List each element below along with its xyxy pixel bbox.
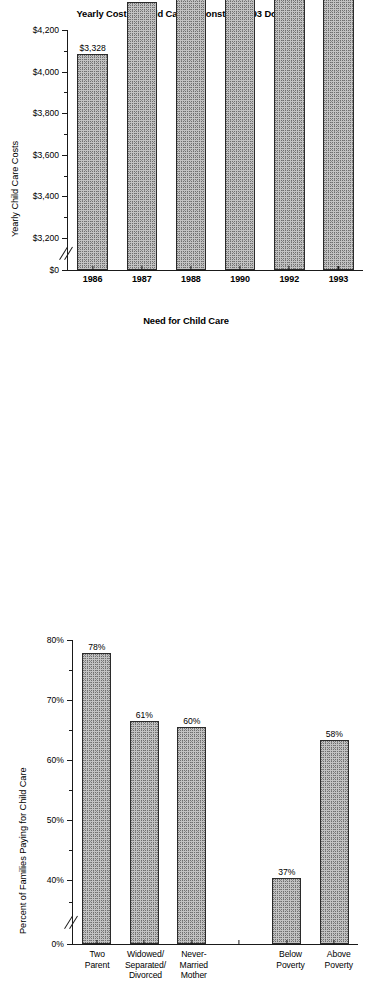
y-tick-label: $3,400 bbox=[33, 191, 59, 201]
y-tick-minor bbox=[64, 51, 67, 52]
bar-two-parent[interactable]: 78% bbox=[82, 653, 111, 944]
x-axis-line bbox=[72, 944, 358, 945]
bar-value-label: $3,328 bbox=[79, 43, 105, 53]
y-tick-label: 60% bbox=[47, 755, 64, 765]
bar-1992[interactable]: $4,004 bbox=[274, 0, 304, 270]
x-label-line: Divorced bbox=[121, 970, 169, 981]
x-axis-labels-yearly-cost: 1986 1987 1988 1990 1992 1993 bbox=[68, 274, 363, 285]
bar-1990[interactable]: $3,744 bbox=[225, 0, 255, 270]
y-axis-title-yearly-cost: Yearly Child Care Costs bbox=[10, 141, 20, 237]
bar-group-yearly-cost: $3,328 $3,536 $3,744 $3,744 bbox=[68, 30, 363, 270]
x-label-never-married-mother: Never- Married Mother bbox=[170, 949, 218, 981]
x-tick bbox=[334, 940, 335, 945]
bar-slot: 61% bbox=[121, 640, 169, 944]
x-label-line: Mother bbox=[170, 970, 218, 981]
y-tick-minor bbox=[64, 92, 67, 93]
x-tick bbox=[239, 940, 240, 945]
x-label-line: Poverty bbox=[315, 960, 363, 971]
y-tick-label: 80% bbox=[47, 635, 64, 645]
x-label-line: Above bbox=[315, 949, 363, 960]
x-label-line: Separated/ bbox=[121, 960, 169, 971]
x-label-line: Poverty bbox=[266, 960, 314, 971]
bar-slot: $3,536 bbox=[117, 30, 166, 270]
x-tick bbox=[144, 940, 145, 945]
x-tick bbox=[190, 266, 191, 271]
y-tick-major bbox=[67, 880, 72, 881]
x-tick bbox=[92, 266, 93, 271]
y-tick-major bbox=[62, 270, 67, 271]
x-axis-labels-need-for-child-care: Two Parent Widowed/ Separated/ Divorced … bbox=[73, 949, 363, 981]
x-axis-line bbox=[67, 270, 363, 271]
y-tick-major bbox=[62, 155, 67, 156]
y-tick-major bbox=[62, 30, 67, 31]
y-tick-minor bbox=[69, 902, 72, 903]
bar-slot-spacer bbox=[216, 640, 264, 944]
plot-area-yearly-cost: $4,200 $4,000 $3,800 $3,600 $3,400 $3,20… bbox=[67, 30, 363, 271]
x-label-line: Below bbox=[266, 949, 314, 960]
chart-title-need-for-child-care: Need for Child Care bbox=[14, 315, 358, 326]
bar-above-poverty[interactable]: 58% bbox=[320, 740, 349, 944]
bar-1986[interactable]: $3,328 bbox=[77, 54, 107, 270]
x-label-line: Never- bbox=[170, 949, 218, 960]
y-tick-label: $0 bbox=[49, 265, 59, 275]
y-tick-minor bbox=[64, 176, 67, 177]
y-tick-minor bbox=[69, 850, 72, 851]
bar-below-poverty[interactable]: 37% bbox=[272, 878, 301, 944]
bar-1987[interactable]: $3,536 bbox=[127, 2, 157, 270]
y-tick-minor bbox=[64, 217, 67, 218]
bar-slot: 58% bbox=[311, 640, 359, 944]
bar-slot: 37% bbox=[263, 640, 311, 944]
x-tick bbox=[286, 940, 287, 945]
bar-1988[interactable]: $3,744 bbox=[176, 0, 206, 270]
bar-group-need-for-child-care: 78% 61% 60% 37% bbox=[73, 640, 358, 944]
y-tick-label: $3,800 bbox=[33, 108, 59, 118]
x-tick bbox=[191, 940, 192, 945]
bar-widowed-separated-divorced[interactable]: 61% bbox=[130, 721, 159, 944]
x-tick bbox=[141, 266, 142, 271]
x-label-above-poverty: Above Poverty bbox=[315, 949, 363, 981]
y-tick-label: 50% bbox=[47, 815, 64, 825]
chart-need-for-child-care: Need for Child Care Percent of Families … bbox=[0, 305, 372, 691]
bar-slot: 78% bbox=[73, 640, 121, 944]
x-label-1988: 1988 bbox=[166, 274, 215, 285]
y-tick-major bbox=[62, 238, 67, 239]
bar-value-label: 61% bbox=[136, 710, 153, 720]
y-tick-label: 70% bbox=[47, 695, 64, 705]
chart-yearly-cost: Yearly Cost of Child Care in Constant 19… bbox=[0, 0, 372, 305]
y-tick-minor bbox=[64, 134, 67, 135]
y-tick-minor bbox=[69, 670, 72, 671]
y-tick-major bbox=[62, 113, 67, 114]
bar-slot: $4,004 bbox=[265, 30, 314, 270]
y-tick-major bbox=[67, 700, 72, 701]
x-label-line: Married bbox=[170, 960, 218, 971]
bar-value-label: 60% bbox=[183, 716, 200, 726]
bar-value-label: 37% bbox=[278, 867, 295, 877]
y-tick-major bbox=[67, 760, 72, 761]
x-label-widowed-separated-divorced: Widowed/ Separated/ Divorced bbox=[121, 949, 169, 981]
y-tick-minor bbox=[69, 730, 72, 731]
x-tick bbox=[289, 266, 290, 271]
x-label-line: Two bbox=[73, 949, 121, 960]
bar-slot: $3,744 bbox=[216, 30, 265, 270]
y-tick-minor bbox=[69, 790, 72, 791]
y-tick-label: 0% bbox=[52, 939, 64, 949]
x-tick bbox=[240, 266, 241, 271]
x-label-1990: 1990 bbox=[216, 274, 265, 285]
x-label-1992: 1992 bbox=[265, 274, 314, 285]
x-tick bbox=[338, 266, 339, 271]
bar-never-married-mother[interactable]: 60% bbox=[177, 727, 206, 944]
bar-slot: $4,108 bbox=[314, 30, 363, 270]
bar-slot: $3,744 bbox=[166, 30, 215, 270]
x-tick bbox=[96, 940, 97, 945]
y-axis-title-need-for-child-care: Percent of Families Paying for Child Car… bbox=[18, 768, 28, 934]
y-tick-label: $4,200 bbox=[33, 25, 59, 35]
x-label-spacer bbox=[218, 949, 266, 981]
y-tick-label: $4,000 bbox=[33, 67, 59, 77]
bar-value-label: 58% bbox=[326, 729, 343, 739]
plot-area-need-for-child-care: 80% 70% 60% 50% 40% 0% 78% bbox=[72, 640, 358, 945]
x-label-two-parent: Two Parent bbox=[73, 949, 121, 981]
x-label-1987: 1987 bbox=[117, 274, 166, 285]
bar-1993[interactable]: $4,108 bbox=[323, 0, 353, 270]
x-label-1993: 1993 bbox=[314, 274, 363, 285]
y-tick-major bbox=[67, 640, 72, 641]
